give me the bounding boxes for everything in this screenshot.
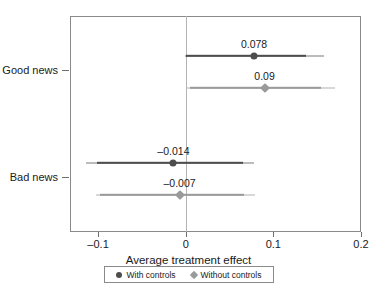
legend-item-label: Without controls <box>201 270 262 280</box>
confidence-interval-inner <box>190 87 321 89</box>
legend: With controlsWithout controls <box>104 266 274 283</box>
coefficient-plot-figure: –0.100.10.2 Good newsBad news 0.078–0.01… <box>0 0 377 299</box>
estimate-value-label: 0.09 <box>254 70 274 82</box>
confidence-interval-inner <box>100 194 244 196</box>
x-tick-label: –0.1 <box>87 238 108 250</box>
y-tick <box>62 70 69 71</box>
estimate-value-label: –0.007 <box>164 177 196 189</box>
x-tick <box>98 232 99 237</box>
legend-item: Without controls <box>191 270 262 280</box>
estimate-point <box>251 53 258 60</box>
x-axis-title: Average treatment effect <box>0 254 377 266</box>
confidence-interval-inner <box>186 55 306 57</box>
y-tick <box>62 177 69 178</box>
circle-marker-icon <box>116 272 122 278</box>
y-category-label: Bad news <box>10 171 58 183</box>
zero-reference-line <box>186 16 187 232</box>
x-tick <box>361 232 362 237</box>
caption-sliver <box>0 292 377 299</box>
x-tick-label: 0 <box>183 238 189 250</box>
estimate-value-label: –0.014 <box>157 145 189 157</box>
x-tick <box>186 232 187 237</box>
estimate-point <box>170 160 177 167</box>
legend-item-label: With controls <box>126 270 175 280</box>
x-tick-label: 0.1 <box>266 238 281 250</box>
legend-item: With controls <box>116 270 175 280</box>
x-tick-label: 0.2 <box>353 238 368 250</box>
plot-area <box>70 16 361 232</box>
diamond-marker-icon <box>189 270 197 278</box>
estimate-value-label: 0.078 <box>241 38 267 50</box>
x-tick <box>273 232 274 237</box>
y-category-label: Good news <box>2 64 58 76</box>
